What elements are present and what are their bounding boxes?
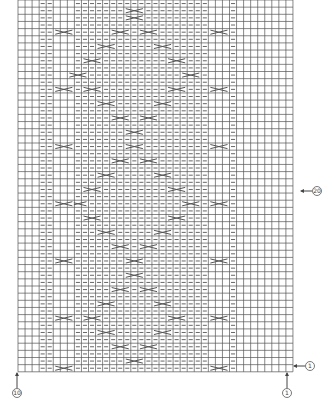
cable-cross-icon bbox=[209, 144, 229, 150]
cable-cross-icon bbox=[96, 301, 116, 307]
cable-cross-icon bbox=[124, 258, 144, 264]
cable-cross-icon bbox=[209, 258, 229, 264]
arrow-up-icon bbox=[285, 372, 289, 376]
cable-cross-icon bbox=[96, 229, 116, 235]
cable-cross-icon bbox=[152, 101, 172, 107]
cable-cross-icon bbox=[167, 86, 187, 92]
cable-cross-icon bbox=[54, 201, 74, 207]
cable-cross-icon bbox=[110, 287, 130, 293]
cable-cross-icon bbox=[152, 329, 172, 335]
cable-cross-icon bbox=[181, 72, 201, 78]
cable-cross-icon bbox=[96, 172, 116, 178]
cable-cross-icon bbox=[152, 172, 172, 178]
cable-cross-icon bbox=[167, 186, 187, 192]
arrow-up-icon bbox=[15, 372, 19, 376]
arrow-left-icon bbox=[300, 189, 304, 193]
cable-cross-icon bbox=[209, 29, 229, 35]
cable-cross-icon bbox=[124, 144, 144, 150]
svg-text:1: 1 bbox=[285, 389, 289, 396]
cable-cross-icon bbox=[152, 229, 172, 235]
cable-cross-icon bbox=[110, 29, 130, 35]
cable-cross-icon bbox=[138, 29, 158, 35]
cable-cross-icon bbox=[54, 365, 74, 371]
cable-cross-icon bbox=[110, 244, 130, 250]
cable-cross-icon bbox=[209, 86, 229, 92]
cable-cross-icon bbox=[167, 215, 187, 221]
cable-cross-icon bbox=[110, 344, 130, 350]
arrow-left-icon bbox=[293, 364, 297, 368]
cable-cross-icon bbox=[124, 358, 144, 364]
cable-cross-icon bbox=[54, 29, 74, 35]
cable-cross-icon bbox=[96, 101, 116, 107]
cable-cross-icon bbox=[138, 115, 158, 121]
cable-cross-icon bbox=[138, 244, 158, 250]
cable-cross-icon bbox=[82, 86, 102, 92]
knitting-chart: 111020 bbox=[0, 0, 330, 406]
cable-cross-icon bbox=[138, 287, 158, 293]
cable-cross-icon bbox=[138, 158, 158, 164]
cable-cross-icon bbox=[96, 43, 116, 49]
cable-cross-icon bbox=[167, 58, 187, 64]
row-marker-mid-right: 20 bbox=[300, 187, 322, 196]
cable-cross-icon bbox=[110, 115, 130, 121]
svg-text:20: 20 bbox=[313, 187, 321, 194]
cable-cross-icon bbox=[181, 201, 201, 207]
cable-cross-icon bbox=[167, 315, 187, 321]
cable-cross-icon bbox=[124, 272, 144, 278]
cable-cross-icon bbox=[96, 329, 116, 335]
cable-cross-icon bbox=[152, 301, 172, 307]
cable-cross-icon bbox=[82, 186, 102, 192]
col-marker-bottom-left: 10 bbox=[13, 372, 22, 398]
cable-cross-icon bbox=[82, 58, 102, 64]
cable-cross-icon bbox=[54, 144, 74, 150]
cable-cross-icon bbox=[209, 315, 229, 321]
cable-cross-icon bbox=[209, 201, 229, 207]
cable-cross-icon bbox=[152, 43, 172, 49]
cable-cross-icon bbox=[124, 129, 144, 135]
cable-cross-icon bbox=[209, 365, 229, 371]
cable-cross-icon bbox=[110, 158, 130, 164]
cable-cross-icon bbox=[82, 215, 102, 221]
cable-cross-icon bbox=[124, 8, 144, 14]
cable-cross-icon bbox=[54, 315, 74, 321]
col-marker-bottom-right: 1 bbox=[283, 372, 292, 398]
cable-cross-icon bbox=[54, 258, 74, 264]
row-marker-right: 1 bbox=[293, 362, 315, 371]
cable-cross-icon bbox=[82, 315, 102, 321]
cable-cross-icon bbox=[54, 86, 74, 92]
cable-cross-icon bbox=[124, 15, 144, 21]
svg-text:1: 1 bbox=[308, 362, 312, 369]
cable-cross-icon bbox=[138, 344, 158, 350]
cable-cross-icon bbox=[68, 72, 88, 78]
svg-text:10: 10 bbox=[13, 389, 21, 396]
